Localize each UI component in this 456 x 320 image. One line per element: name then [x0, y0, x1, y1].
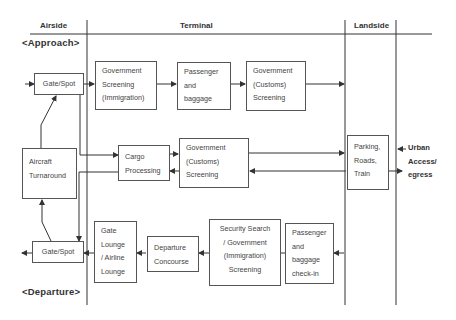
gate-lounge-label: Gate Lounge / Airline Lounge [101, 224, 136, 278]
security-search-label: Security Search / Government (Immigratio… [210, 222, 280, 276]
aircraft-turnaround-box: Aircraft Turnaround [22, 148, 77, 199]
gov-screening-immigration-label: Government Screening (Immigration) [102, 64, 156, 105]
gate-spot-departure-box: Gate/Spot [32, 241, 84, 263]
parking-roads-train-box: Parking, Roads, Train [347, 135, 389, 190]
security-search-box: Security Search / Government (Immigratio… [209, 219, 281, 286]
passenger-checkin-label: Passenger and baggage check-in [292, 226, 333, 280]
gov-customs-cargo-label: Government (Customs) Screening [186, 141, 248, 182]
gov-customs-arrival-box: Government (Customs) Screening [246, 61, 306, 111]
zone-landside-label: Landside [354, 21, 389, 30]
gov-screening-immigration-box: Government Screening (Immigration) [95, 61, 157, 110]
phase-departure-label: <Departure> [22, 286, 80, 297]
departure-concourse-box: Departure Concourse [147, 236, 199, 272]
cargo-processing-label: Cargo Processing [125, 150, 169, 177]
passenger-baggage-box: Passenger and baggage [177, 62, 231, 110]
phase-approach-label: <Approach> [22, 37, 79, 48]
passenger-checkin-box: Passenger and baggage check-in [285, 223, 334, 284]
cargo-processing-box: Cargo Processing [118, 145, 170, 181]
passenger-baggage-label: Passenger and baggage [184, 65, 230, 106]
aircraft-turnaround-label: Aircraft Turnaround [29, 155, 76, 182]
gate-spot-departure-label: Gate/Spot [42, 245, 74, 259]
gate-spot-arrival-box: Gate/Spot [34, 73, 84, 95]
gov-customs-cargo-box: Government (Customs) Screening [179, 138, 249, 188]
gov-customs-arrival-label: Government (Customs) Screening [253, 64, 305, 105]
departure-concourse-label: Departure Concourse [154, 241, 198, 268]
gate-lounge-box: Gate Lounge / Airline Lounge [94, 221, 137, 283]
parking-roads-train-label: Parking, Roads, Train [354, 140, 388, 181]
zone-airside-label: Airside [40, 21, 67, 30]
zone-terminal-label: Terminal [180, 21, 213, 30]
urban-access-label: Urban Access/ egress [408, 141, 437, 182]
gate-spot-arrival-label: Gate/Spot [43, 77, 75, 91]
